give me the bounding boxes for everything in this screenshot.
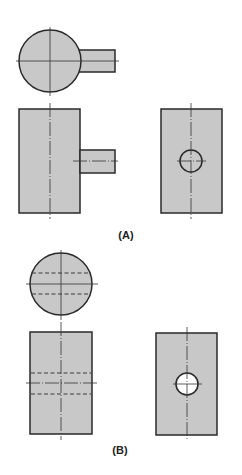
panel-b-label: (B) — [112, 444, 127, 456]
panel-b — [26, 250, 217, 440]
panel-a — [16, 27, 222, 219]
cylinder-front-outline — [19, 109, 80, 213]
panel-a-top-view — [16, 27, 119, 96]
panel-b-side-view — [156, 327, 217, 440]
panel-b-front-view — [26, 322, 98, 440]
panel-a-label: (A) — [118, 229, 133, 241]
panel-b-top-view — [26, 250, 98, 320]
panel-a-front-view — [19, 103, 118, 219]
cylinder-side-outline — [161, 109, 222, 213]
peg-front-outline — [80, 150, 115, 173]
panel-a-side-view — [161, 103, 222, 219]
